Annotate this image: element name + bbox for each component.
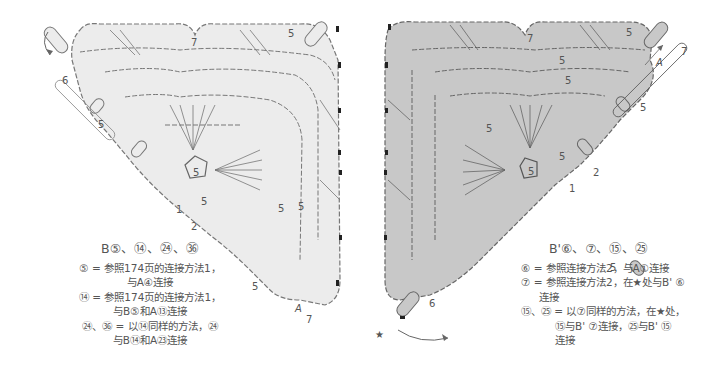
legend-row: 连接 xyxy=(521,290,711,305)
legend-row: ㉔、㊱ = 以⑭同样的方法，㉔ xyxy=(50,319,250,334)
stitch-count-label: 7 xyxy=(191,37,197,48)
stitch-count-label: 7 xyxy=(681,46,687,57)
legend-motif-b: B⑤、⑭、㉔、㊱ ⑤ = 参照174页的连接方法1， 与A④连接 ⑭ = 参照1… xyxy=(50,242,250,348)
star-icon: ★ xyxy=(375,329,384,340)
legend-row: 与A④连接 xyxy=(50,275,250,290)
stitch-count-label: 7 xyxy=(306,314,312,325)
legend-motif-b-prime: B'⑥、⑦、⑮、㉕ ⑥ = 参照连接方法2，与A①连接 ⑦ = 参照连接方法2，… xyxy=(521,242,711,348)
legend-row: 与B⑭和A㉓连接 xyxy=(50,333,250,348)
stitch-count-label: 5 xyxy=(626,27,632,38)
marker-a: A xyxy=(655,57,663,68)
legend-row: ⑤ = 参照174页的连接方法1， xyxy=(50,261,250,276)
stitch-count-label: 5 xyxy=(559,151,565,162)
stitch-count-label: 5 xyxy=(278,203,284,214)
stitch-count-label: 2 xyxy=(593,167,599,178)
stitch-count-label: 5 xyxy=(201,196,207,207)
stitch-count-label: 5 xyxy=(565,75,571,86)
stitch-count-label: 5 xyxy=(559,55,565,66)
stitch-count-label: 5 xyxy=(252,281,258,292)
legend-row: ⑮、㉕ = 以⑦同样的方法，在★处， xyxy=(521,304,711,319)
legend-row: 连接 xyxy=(521,333,711,348)
stitch-count-label: 5 xyxy=(98,119,104,130)
stitch-count-label: 6 xyxy=(429,298,435,309)
legend-title: B⑤、⑭、㉔、㊱ xyxy=(50,242,250,257)
marker-a: A xyxy=(294,303,302,314)
legend-row: ⑮与B' ⑦连接，㉕与B' ⑮ xyxy=(521,319,711,334)
stitch-count-label: 5 xyxy=(298,201,304,212)
stitch-count-label: 5 xyxy=(193,167,199,178)
legend-title: B'⑥、⑦、⑮、㉕ xyxy=(521,242,711,257)
legend-row: 与B⑤和A⑬连接 xyxy=(50,304,250,319)
stitch-count-label: 5 xyxy=(640,102,646,113)
stitch-count-label: 5 xyxy=(288,28,294,39)
stitch-count-label: 7 xyxy=(527,33,533,44)
legend-row: ⑭ = 参照174页的连接方法1， xyxy=(50,290,250,305)
stitch-count-label: 2 xyxy=(191,221,197,232)
stitch-count-label: 1 xyxy=(176,204,182,215)
legend-row: ⑦ = 参照连接方法2，在★处与B' ⑥ xyxy=(521,275,711,290)
stitch-count-label: 1 xyxy=(569,183,575,194)
stitch-count-label: 5 xyxy=(486,123,492,134)
legend-row: ⑥ = 参照连接方法2，与A①连接 xyxy=(521,261,711,276)
stitch-count-label: 6 xyxy=(62,75,68,86)
stitch-count-label: 5 xyxy=(528,166,534,177)
